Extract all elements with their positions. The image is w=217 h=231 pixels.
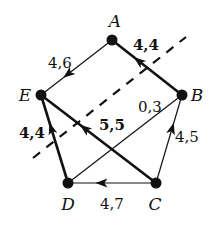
edge-C-D: 4,7	[68, 179, 156, 214]
edge-label: 4,6	[48, 54, 72, 72]
edge-label: 4,5	[175, 128, 199, 146]
node-label: E	[18, 85, 32, 105]
edge-label: 0,3	[138, 98, 162, 116]
node-dot	[36, 90, 47, 101]
edge-D-E: 4,4	[19, 95, 68, 183]
edge-label: 4,4	[19, 124, 45, 142]
edge-B-A: 4,4	[112, 36, 182, 95]
edge-A-E: 4,6	[41, 40, 112, 95]
node-label: C	[148, 194, 161, 214]
edge-D-B: 0,3	[68, 95, 182, 183]
edge-label: 4,7	[100, 195, 124, 213]
edge-label: 4,4	[133, 36, 159, 54]
node-dot	[177, 90, 188, 101]
node-label: D	[60, 194, 75, 214]
edge-label: 5,5	[99, 116, 125, 134]
node-label: B	[190, 85, 204, 105]
node-dot	[63, 178, 74, 189]
node-dot	[107, 35, 118, 46]
node-label: A	[107, 11, 121, 31]
edges: 4,64,44,54,74,45,50,3	[19, 36, 199, 213]
graph-diagram: 4,64,44,54,74,45,50,3 ABCDE	[0, 0, 217, 231]
arrowhead-icon	[45, 121, 57, 135]
node-D: D	[60, 178, 75, 215]
node-dot	[151, 178, 162, 189]
edge-C-B: 4,5	[156, 95, 199, 183]
node-A: A	[107, 11, 122, 46]
edge-line	[68, 95, 182, 183]
